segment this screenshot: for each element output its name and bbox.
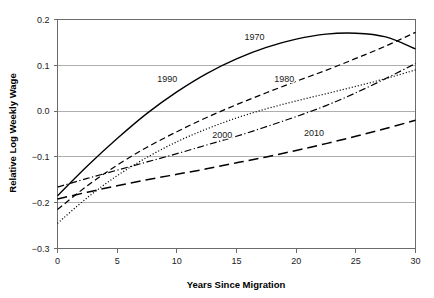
- x-tick-label: 30: [410, 256, 420, 266]
- data-series-lines: [58, 32, 416, 223]
- tick-marks: [54, 20, 416, 253]
- x-tick-label: 10: [172, 256, 182, 266]
- y-axis-title: Relative Log Weekly Wage: [7, 73, 18, 192]
- series-label-2010: 2010: [304, 128, 324, 138]
- y-axis-tick-labels: 0.20.10.0−0.1−0.2−0.3: [32, 15, 50, 254]
- y-tick-label: −0.3: [32, 244, 50, 254]
- chart-canvas: 051015202530 0.20.10.0−0.1−0.2−0.3 19701…: [0, 0, 434, 298]
- x-tick-label: 20: [291, 256, 301, 266]
- series-inline-labels: 1970197019901990198019802000200020102010: [157, 32, 324, 140]
- y-tick-label: 0.0: [37, 106, 50, 116]
- gridlines: [58, 20, 416, 249]
- y-tick-label: 0.2: [37, 15, 50, 25]
- y-tick-label: −0.2: [32, 198, 50, 208]
- series-label-1970: 1970: [244, 32, 264, 42]
- series-line-1980: [58, 70, 416, 223]
- x-tick-label: 5: [115, 256, 120, 266]
- x-tick-label: 25: [351, 256, 361, 266]
- chart-figure: 051015202530 0.20.10.0−0.1−0.2−0.3 19701…: [0, 0, 434, 298]
- series-line-2010: [58, 120, 416, 199]
- x-tick-label: 15: [231, 256, 241, 266]
- series-label-1990: 1990: [157, 74, 177, 84]
- x-tick-label: 0: [55, 256, 60, 266]
- series-label-2000: 2000: [212, 130, 232, 140]
- y-tick-label: 0.1: [37, 61, 50, 71]
- series-label-1980: 1980: [274, 74, 294, 84]
- y-tick-label: −0.1: [32, 152, 50, 162]
- axes: [58, 20, 416, 249]
- x-axis-tick-labels: 051015202530: [55, 256, 421, 266]
- x-axis-title: Years Since Migration: [187, 279, 286, 290]
